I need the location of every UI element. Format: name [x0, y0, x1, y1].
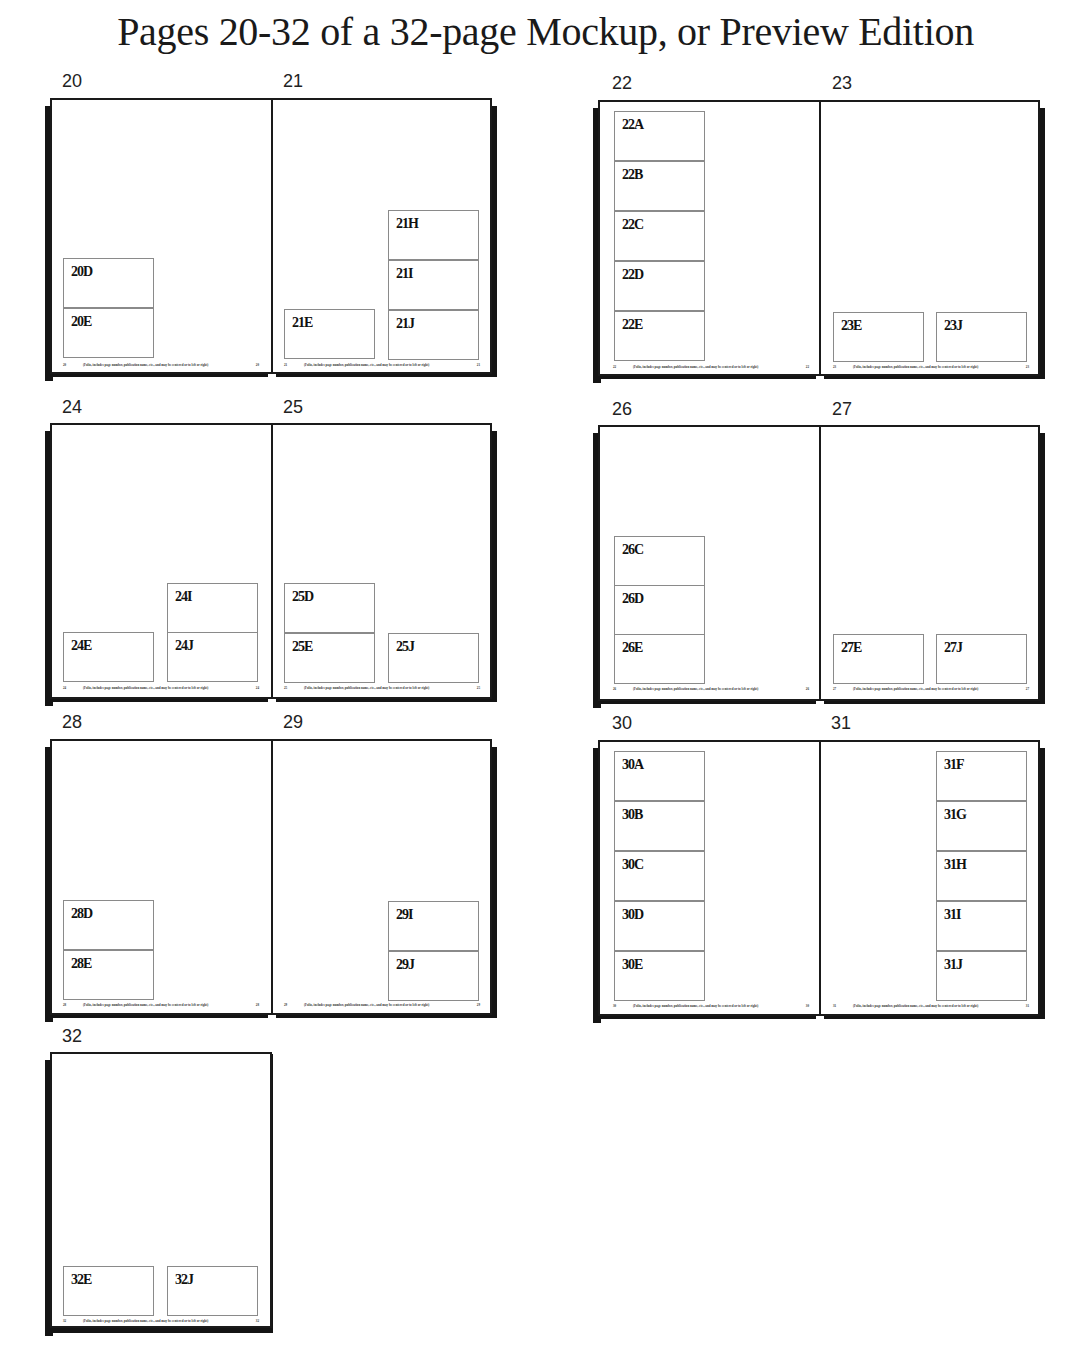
slot-22C: 22C [614, 211, 705, 261]
spine [819, 100, 821, 376]
slot-25E: 25E [284, 633, 375, 683]
page-number-24: 24 [62, 397, 82, 418]
page-number-23: 23 [832, 73, 852, 94]
folio-22: 22(Folio, includes page number, publicat… [613, 365, 809, 370]
slot-30C: 30C [614, 851, 705, 901]
slot-30B: 30B [614, 801, 705, 851]
slot-22E: 22E [614, 311, 705, 361]
page-number-30: 30 [612, 713, 632, 734]
folio-23: 23(Folio, includes page number, publicat… [833, 365, 1029, 370]
folio-29: 29(Folio, includes page number, publicat… [284, 1003, 480, 1008]
slot-28E: 28E [63, 950, 154, 1000]
folio-24: 24(Folio, includes page number, publicat… [63, 686, 259, 691]
folio-30: 30(Folio, includes page number, publicat… [613, 1004, 809, 1009]
slot-29J: 29J [388, 951, 479, 1001]
page-number-26: 26 [612, 399, 632, 420]
page-number-29: 29 [283, 712, 303, 733]
folio-32: 32(Folio, includes page number, publicat… [63, 1319, 259, 1324]
slot-29I: 29I [388, 901, 479, 951]
page-title: Pages 20-32 of a 32-page Mockup, or Prev… [0, 8, 1091, 55]
slot-26C: 26C [614, 536, 705, 586]
slot-31H: 31H [936, 851, 1027, 901]
slot-21H: 21H [388, 210, 479, 260]
slot-27J: 27J [936, 634, 1027, 684]
slot-25D: 25D [284, 583, 375, 633]
spine [271, 739, 273, 1015]
folio-20: 20(Folio, includes page number, publicat… [63, 363, 259, 368]
slot-20D: 20D [63, 258, 154, 308]
slot-21I: 21I [388, 260, 479, 310]
slot-31I: 31I [936, 901, 1027, 951]
slot-20E: 20E [63, 308, 154, 358]
slot-30E: 30E [614, 951, 705, 1001]
slot-21E: 21E [284, 309, 375, 359]
slot-26D: 26D [614, 585, 705, 635]
slot-22B: 22B [614, 161, 705, 211]
slot-28D: 28D [63, 900, 154, 950]
slot-31G: 31G [936, 801, 1027, 851]
spine [819, 740, 821, 1016]
spine [271, 98, 273, 374]
slot-31F: 31F [936, 751, 1027, 801]
folio-26: 26(Folio, includes page number, publicat… [613, 687, 809, 692]
page-number-21: 21 [283, 71, 303, 92]
slot-23E: 23E [833, 312, 924, 362]
slot-22A: 22A [614, 111, 705, 161]
folio-27: 27(Folio, includes page number, publicat… [833, 687, 1029, 692]
slot-32E: 32E [63, 1266, 154, 1316]
spine [271, 423, 273, 699]
page-number-25: 25 [283, 397, 303, 418]
slot-32J: 32J [167, 1266, 258, 1316]
slot-27E: 27E [833, 634, 924, 684]
spine [819, 425, 821, 701]
folio-21: 21(Folio, includes page number, publicat… [284, 363, 480, 368]
slot-26E: 26E [614, 634, 705, 684]
page-number-28: 28 [62, 712, 82, 733]
slot-30D: 30D [614, 901, 705, 951]
slot-24J: 24J [167, 632, 258, 682]
page-number-31: 31 [831, 713, 851, 734]
page-number-27: 27 [832, 399, 852, 420]
slot-22D: 22D [614, 261, 705, 311]
slot-23J: 23J [936, 312, 1027, 362]
slot-24I: 24I [167, 583, 258, 633]
slot-21J: 21J [388, 310, 479, 360]
slot-24E: 24E [63, 632, 154, 682]
page-number-20: 20 [62, 71, 82, 92]
slot-25J: 25J [388, 633, 479, 683]
slot-30A: 30A [614, 751, 705, 801]
folio-28: 28(Folio, includes page number, publicat… [63, 1003, 259, 1008]
page-number-32: 32 [62, 1026, 82, 1047]
folio-25: 25(Folio, includes page number, publicat… [284, 686, 480, 691]
slot-31J: 31J [936, 951, 1027, 1001]
page-number-22: 22 [612, 73, 632, 94]
folio-31: 31(Folio, includes page number, publicat… [833, 1004, 1029, 1009]
